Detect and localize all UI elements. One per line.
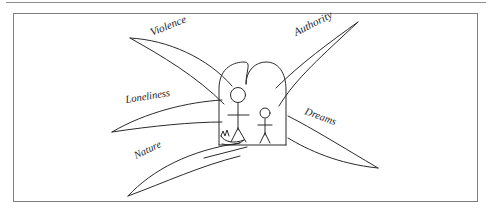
page-root: Violence Authority Loneliness Dreams Nat… [0, 0, 492, 215]
wing-label-authority: Authority [291, 8, 334, 38]
wing-label-nature: Nature [131, 138, 163, 161]
wing-authority [276, 22, 358, 106]
wing-label-violence: Violence [148, 13, 188, 38]
wing-label-dreams: Dreams [302, 105, 338, 127]
diagram-canvas: Violence Authority Loneliness Dreams Nat… [0, 0, 492, 215]
wing-loneliness [112, 100, 222, 132]
small-stick-figure [258, 108, 272, 143]
twin-arch-enclosure [219, 62, 286, 145]
large-stick-figure [228, 88, 249, 143]
wing-label-loneliness: Loneliness [124, 87, 171, 105]
